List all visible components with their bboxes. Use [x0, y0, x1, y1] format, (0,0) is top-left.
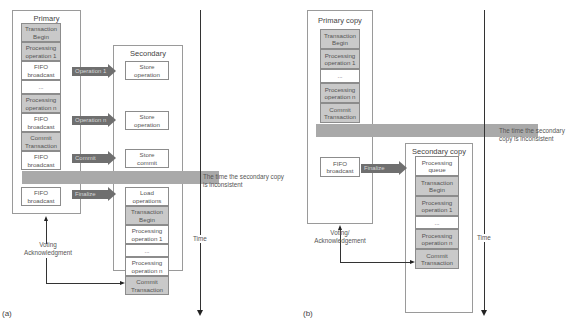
voting-line-down [46, 258, 47, 283]
primary-cell-fifo-broadcast-3: FIFO broadcast [21, 151, 61, 170]
inconsistent-label-a: The time the secondary copy is inconsist… [203, 173, 284, 188]
secondary-ellipsis: ... [125, 244, 169, 257]
voting-line-right-b [340, 262, 410, 263]
secondary-copy-processing-op-n: Processing operation n [415, 229, 459, 249]
secondary-copy-processing-op-1: Processing operation 1 [415, 196, 459, 216]
secondary-transaction-begin: Transaction Begin [125, 206, 169, 225]
voting-label-b: Voting/ Acknowledgement [310, 229, 370, 244]
time-arrow-icon [197, 310, 203, 316]
arrow-commit-label: Commit [72, 154, 108, 163]
inconsistent-label-b: The time the secondary copy is inconsist… [499, 127, 565, 142]
secondary-commit-transaction: Commit Transaction [125, 276, 169, 295]
arrow-operation-1-label: Operation 1 [72, 67, 108, 76]
arrow-finalize-b: Finalize [361, 163, 407, 174]
primary-cell-commit-transaction: Commit Transaction [21, 132, 61, 151]
primary-copy-title: Primary copy [308, 16, 372, 25]
secondary-copy-title: Secondary copy [406, 147, 472, 156]
primary-copy-transaction-begin: Transaction Begin [320, 29, 360, 49]
panel-b-label: (b) [303, 309, 313, 318]
arrow-head-icon [108, 151, 116, 165]
voting-label-a: Voting Acknowledgment [24, 241, 72, 256]
primary-copy-fifo-broadcast: FIFO broadcast [320, 157, 360, 177]
secondary-processing-op-1: Processing operation 1 [125, 225, 169, 244]
arrow-finalize-label: Finalize [72, 190, 108, 199]
primary-cell-fifo-broadcast-4: FIFO broadcast [21, 187, 61, 206]
primary-copy-commit-transaction: Commit Transaction [320, 103, 360, 123]
secondary-title: Secondary [114, 49, 182, 58]
primary-cell-transaction-begin: Transaction Begin [21, 23, 61, 42]
primary-title: Primary [13, 14, 80, 23]
arrow-operation-n-label: Operation n [72, 116, 108, 125]
secondary-copy-commit-transaction: Commit Transaction [415, 249, 459, 269]
arrow-head-icon [108, 113, 116, 127]
primary-copy-processing-op-n: Processing operation n [320, 83, 360, 103]
primary-cell-ellipsis: ... [21, 80, 61, 94]
arrow-head-icon [108, 187, 116, 201]
arrow-finalize: Finalize [72, 189, 114, 200]
arrow-right-icon [120, 281, 125, 285]
arrow-head-icon [399, 161, 407, 175]
arrow-head-icon [108, 64, 116, 78]
secondary-store-operation-n: Store operation [125, 111, 169, 130]
secondary-copy-ellipsis: ... [415, 216, 459, 229]
time-label-b: Time [476, 234, 492, 242]
secondary-copy-transaction-begin: Transaction Begin [415, 176, 459, 196]
primary-cell-processing-op-1: Processing operation 1 [21, 42, 61, 61]
arrow-operation-n: Operation n [72, 115, 114, 126]
primary-cell-fifo-broadcast-2: FIFO broadcast [21, 113, 61, 132]
voting-line-down-b [340, 244, 341, 262]
primary-copy-processing-op-1: Processing operation 1 [320, 49, 360, 69]
secondary-store-operation-1: Store operation [125, 61, 169, 80]
primary-cell-processing-op-n: Processing operation n [21, 94, 61, 113]
arrow-operation-1: Operation 1 [72, 66, 114, 77]
arrow-commit: Commit [72, 153, 114, 164]
secondary-load-operations: Load operations [125, 187, 169, 206]
inconsistent-band-a [22, 171, 219, 184]
secondary-copy-processing-queue: Processing queue [415, 156, 459, 176]
time-axis-b [484, 10, 485, 312]
voting-line-right [46, 283, 120, 284]
time-arrow-icon [481, 310, 487, 316]
time-axis-a [200, 10, 201, 312]
primary-copy-ellipsis: ... [320, 69, 360, 83]
primary-cell-fifo-broadcast-1: FIFO broadcast [21, 61, 61, 80]
arrow-finalize-b-label: Finalize [361, 164, 399, 173]
panel-a-label: (a) [2, 309, 12, 318]
secondary-processing-op-n: Processing operation n [125, 257, 169, 276]
arrow-right-icon [410, 260, 415, 264]
secondary-store-commit: Store commit [125, 149, 169, 168]
arrow-up-icon [44, 216, 48, 221]
time-label-a: Time [192, 235, 208, 243]
